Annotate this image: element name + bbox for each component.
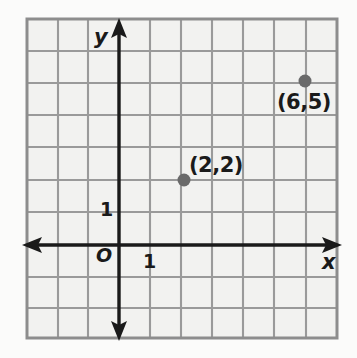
data-point-6-5 [299, 75, 312, 88]
origin-label: O [96, 246, 112, 265]
y-tick-label-1: 1 [100, 200, 113, 219]
coordinate-plane-figure: y x O 1 1 (2,2) (6,5) [0, 0, 357, 358]
point-label-2-2: (2,2) [189, 155, 243, 176]
x-tick-label-1: 1 [143, 252, 156, 271]
coordinate-grid-graphic [0, 0, 357, 358]
point-label-6-5: (6,5) [277, 92, 331, 113]
y-axis-label: y [94, 27, 108, 48]
x-axis-label: x [322, 252, 336, 273]
